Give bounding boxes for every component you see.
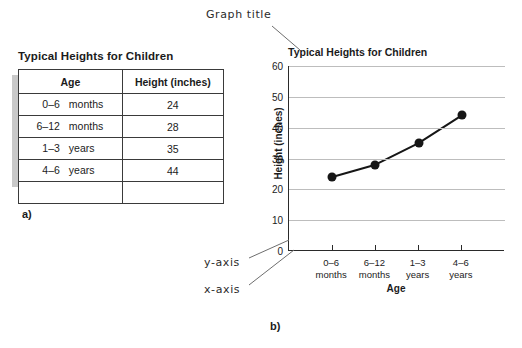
gridline bbox=[289, 97, 505, 98]
table-panel: Typical Heights for Children Age Height … bbox=[18, 50, 230, 204]
data-point bbox=[414, 139, 423, 148]
heights-table: Age Height (inches) 0–6 months 24 bbox=[18, 69, 224, 204]
cell-age-unit: months bbox=[69, 121, 107, 132]
gridline bbox=[289, 189, 505, 190]
data-point bbox=[328, 173, 337, 182]
annotation-y-axis: y-axis bbox=[204, 256, 240, 269]
cell-age-range: 1–3 bbox=[34, 143, 60, 154]
cell-empty-height bbox=[122, 182, 223, 204]
panel-label-b: b) bbox=[270, 320, 280, 332]
x-axis-title: Age bbox=[288, 283, 504, 294]
table-caption: Typical Heights for Children bbox=[18, 50, 230, 62]
plot-area: 0102030405060 bbox=[288, 66, 504, 251]
x-tick bbox=[375, 245, 376, 251]
table-shadow-wrapper: Age Height (inches) 0–6 months 24 bbox=[18, 69, 230, 204]
table-row: 0–6 months 24 bbox=[19, 94, 224, 116]
cell-age-range: 4–6 bbox=[34, 165, 60, 176]
cell-empty-age bbox=[19, 182, 123, 204]
y-tick-label: 50 bbox=[272, 91, 283, 102]
cell-age-range: 0–6 bbox=[34, 99, 60, 110]
x-tick-line: 4–6 bbox=[432, 257, 490, 269]
x-tick-line: years bbox=[432, 269, 490, 281]
cell-height: 28 bbox=[122, 116, 223, 138]
gridline bbox=[289, 66, 505, 67]
cell-height: 24 bbox=[122, 94, 223, 116]
x-tick bbox=[418, 245, 419, 251]
cell-age: 1–3 years bbox=[19, 138, 123, 160]
table-row: 1–3 years 35 bbox=[19, 138, 224, 160]
x-tick-label: 4–6years bbox=[432, 257, 490, 281]
y-tick-label: 0 bbox=[277, 246, 283, 257]
data-point bbox=[371, 160, 380, 169]
cell-age-unit: months bbox=[69, 99, 107, 110]
table-row: 6–12 months 28 bbox=[19, 116, 224, 138]
cell-age-unit: years bbox=[69, 165, 107, 176]
y-tick-label: 10 bbox=[272, 215, 283, 226]
gridline bbox=[289, 220, 505, 221]
data-point bbox=[457, 111, 466, 120]
y-tick-label: 60 bbox=[272, 61, 283, 72]
table-header-row: Age Height (inches) bbox=[19, 70, 224, 94]
cell-age-range: 6–12 bbox=[34, 121, 60, 132]
panel-label-a: a) bbox=[22, 208, 32, 220]
column-header-age: Age bbox=[19, 70, 123, 94]
table-row: 4–6 years 44 bbox=[19, 160, 224, 182]
y-axis-title: Height (inches) bbox=[273, 107, 284, 179]
gridline bbox=[289, 159, 505, 160]
cell-age: 6–12 months bbox=[19, 116, 123, 138]
annotation-x-axis: x-axis bbox=[204, 283, 240, 296]
cell-age: 0–6 months bbox=[19, 94, 123, 116]
annotation-graph-title: Graph title bbox=[206, 8, 271, 21]
column-header-height: Height (inches) bbox=[122, 70, 223, 94]
y-tick-label: 20 bbox=[272, 184, 283, 195]
y-tick-label: 40 bbox=[272, 122, 283, 133]
gridline bbox=[289, 128, 505, 129]
x-tick bbox=[461, 245, 462, 251]
cell-height: 44 bbox=[122, 160, 223, 182]
chart-panel: Typical Heights for Children Height (inc… bbox=[262, 46, 512, 296]
table-row-empty bbox=[19, 182, 224, 204]
cell-height: 35 bbox=[122, 138, 223, 160]
cell-age: 4–6 years bbox=[19, 160, 123, 182]
cell-age-unit: years bbox=[69, 143, 107, 154]
y-tick-label: 30 bbox=[272, 153, 283, 164]
x-tick bbox=[332, 245, 333, 251]
chart-title: Typical Heights for Children bbox=[288, 46, 427, 58]
